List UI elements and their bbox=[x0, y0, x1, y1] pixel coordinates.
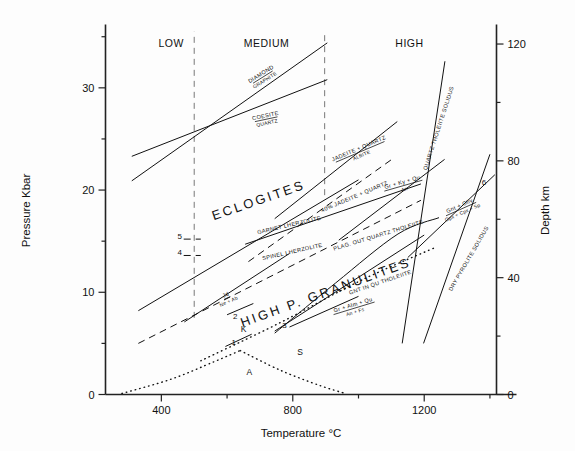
reaction-label-gnt-oliv: Gnt + OlivOpx + Cpx + Sp bbox=[441, 195, 481, 223]
number-label-2: 2 bbox=[233, 312, 238, 321]
reaction-label-quartz-tholeiite-solidus-numerator: QUARTZ THOLEIITE SOLIDUS bbox=[422, 85, 455, 170]
reaction-label-diamond: DIAMONDGRAPHITE bbox=[247, 64, 278, 90]
pressure-tick-label: 20 bbox=[82, 184, 94, 196]
reaction-label-coesite: COESITEQUARTZ bbox=[252, 110, 281, 129]
reaction-label-plag-out-quartz-tholeiite-numerator: PLAG. OUT QUARTZ THOLEIITE bbox=[333, 219, 424, 252]
reaction-label-jd: JdNe + Ab bbox=[216, 288, 239, 308]
zone-label-medium: MEDIUM bbox=[244, 37, 290, 49]
number-label-6: 6 bbox=[482, 178, 487, 187]
letter-label-A: A bbox=[247, 367, 253, 377]
reaction-label-quartz-tholeiite-solidus: QUARTZ THOLEIITE SOLIDUS bbox=[422, 85, 455, 170]
depth-tick-label: 120 bbox=[508, 38, 526, 50]
temperature-tick-label: 400 bbox=[152, 404, 170, 416]
labels-group: LOWMEDIUMHIGHECLOGITESHIGH P. GRANULITES… bbox=[159, 37, 490, 377]
reaction-label-plag-out-quartz-tholeiite: PLAG. OUT QUARTZ THOLEIITE bbox=[333, 219, 424, 252]
reaction-label-spinel-lherzolite-numerator: SPINEL LHERZOLITE bbox=[262, 242, 323, 262]
axes-group: 0102030040801204008001200Temperature °CP… bbox=[20, 25, 551, 439]
number-label-3: 3 bbox=[282, 321, 287, 330]
figure-root: 0102030040801204008001200Temperature °CP… bbox=[0, 0, 575, 451]
letter-label-S: S bbox=[297, 347, 303, 357]
phase-diagram-svg: 0102030040801204008001200Temperature °CP… bbox=[0, 0, 575, 451]
curve-curve-1-K bbox=[225, 334, 251, 346]
reaction-label-gr-ky-qu-denominator: An bbox=[400, 185, 408, 193]
curve-diamond-graphite bbox=[132, 43, 327, 181]
field-label-eclogites: ECLOGITES bbox=[210, 177, 307, 223]
letter-label-K: K bbox=[241, 324, 247, 334]
temperature-tick-label: 800 bbox=[284, 404, 302, 416]
curve-geotherm-A-falling bbox=[240, 351, 345, 394]
pressure-tick-label: 0 bbox=[88, 389, 94, 401]
reaction-label-spinel-lherzolite: SPINEL LHERZOLITE bbox=[262, 242, 323, 262]
depth-axis-title: Depth km bbox=[539, 186, 551, 235]
temperature-tick-label: 1200 bbox=[412, 404, 436, 416]
temperature-axis-title: Temperature °C bbox=[261, 427, 342, 439]
reaction-label-gr-alm-qu: Gr + Alm + QuAn + Fs bbox=[332, 296, 377, 321]
curve-coesite-quartz bbox=[132, 80, 327, 157]
pressure-tick-label: 30 bbox=[82, 82, 94, 94]
field-label-high-p-granulites: HIGH P. GRANULITES bbox=[239, 254, 413, 330]
zone-label-high: HIGH bbox=[395, 37, 423, 49]
pressure-axis-title: Pressure Kbar bbox=[20, 174, 32, 248]
number-label-5: 5 bbox=[178, 232, 183, 241]
reaction-label-jadeite-quartz: JADEITE + QUARTZALBITE bbox=[331, 134, 390, 169]
depth-tick-label: 0 bbox=[508, 389, 514, 401]
zone-label-low: LOW bbox=[159, 37, 184, 49]
pressure-tick-label: 10 bbox=[82, 286, 94, 298]
depth-tick-label: 80 bbox=[508, 155, 520, 167]
depth-tick-label: 40 bbox=[508, 272, 520, 284]
number-label-4: 4 bbox=[178, 248, 183, 257]
curve-geotherm-A-rising bbox=[122, 351, 240, 394]
number-label-1: 1 bbox=[231, 338, 236, 347]
